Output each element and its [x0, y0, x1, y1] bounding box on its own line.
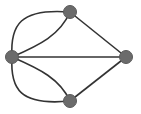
edge-left-top-outer: [12, 11, 70, 57]
edge-bottom-right: [70, 57, 126, 101]
multigraph-diagram: [0, 0, 141, 114]
edges: [12, 11, 126, 101]
edge-left-bottom-inner: [12, 57, 70, 101]
node-top: [64, 6, 77, 19]
edge-left-top-inner: [12, 12, 70, 57]
node-bottom: [64, 95, 77, 108]
node-right: [120, 51, 133, 64]
edge-left-bottom-outer: [12, 57, 70, 102]
edge-top-right: [70, 12, 126, 57]
node-left: [6, 51, 19, 64]
